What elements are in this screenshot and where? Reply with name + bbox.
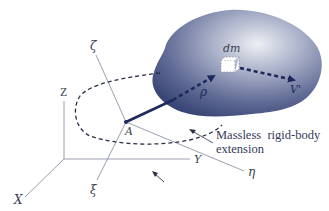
zeta-axis [96, 55, 126, 122]
annotation-line1: Massless rigid-body [216, 128, 321, 142]
xi-axis-label: ξ [90, 183, 98, 197]
y-axis-label: Y [194, 153, 203, 166]
dm-label: dm [223, 42, 240, 55]
x-axis-label: X [13, 193, 23, 207]
rigid-body-diagram: Z Y X ζ ξ η A dm ρ V' Massless rigid-bod… [0, 0, 329, 211]
zeta-axis-label: ζ [90, 39, 98, 53]
rho-vector-solid [126, 100, 173, 122]
z-axis-label: Z [60, 85, 67, 99]
xi-axis [97, 122, 126, 180]
annotation-arrowhead [189, 129, 196, 134]
rigid-body [152, 10, 321, 117]
rho-label: ρ [199, 85, 207, 99]
velocity-label: V' [290, 83, 301, 96]
annotation-line2: extension [216, 142, 265, 156]
inertial-axes [25, 101, 190, 197]
origin-label: A [124, 125, 133, 138]
x-axis [25, 159, 64, 197]
origin-point [124, 120, 128, 124]
eta-axis-label: η [248, 165, 256, 179]
